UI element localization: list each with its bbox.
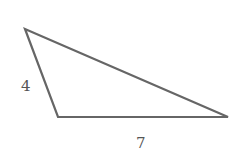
triangle-shape (25, 29, 228, 117)
left-side-length-label: 4 (21, 79, 31, 94)
bottom-side-length-label: 7 (136, 136, 146, 151)
triangle-figure (0, 0, 232, 166)
